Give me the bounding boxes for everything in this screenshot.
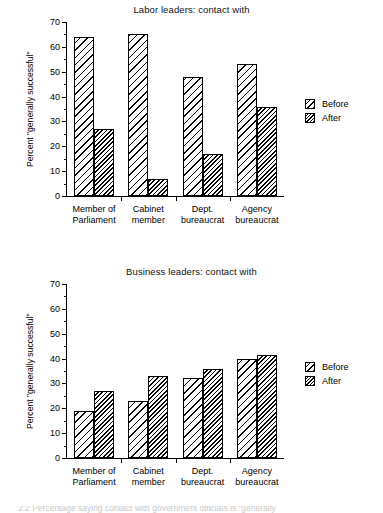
y-axis-minor-tick xyxy=(64,34,67,35)
bar-before-0 xyxy=(74,37,94,196)
figure-caption-partial: 2.2 Percentage saying contact with gover… xyxy=(0,506,383,513)
bar-before-2 xyxy=(183,378,203,458)
y-axis-tick-label: 30 xyxy=(50,116,60,126)
y-axis-tick xyxy=(62,408,67,409)
y-axis-tick xyxy=(62,284,67,285)
x-axis-tick xyxy=(230,458,231,463)
bar-before-1 xyxy=(128,34,148,196)
plot-area: Percent "generally successful" 010203040… xyxy=(66,284,284,459)
y-axis-minor-tick xyxy=(64,396,67,397)
x-axis-category-label: Dept.bureaucrat xyxy=(181,204,224,226)
y-axis-minor-tick xyxy=(64,321,67,322)
y-axis-tick xyxy=(62,196,67,197)
y-axis-tick xyxy=(62,458,67,459)
y-axis-tick xyxy=(62,22,67,23)
y-axis-tick xyxy=(62,47,67,48)
legend-item-before: Before xyxy=(305,362,349,372)
x-axis-tick xyxy=(176,196,177,201)
x-axis-category-label: Member ofParliament xyxy=(73,204,116,226)
bar-after-2 xyxy=(203,369,223,458)
x-axis-category-label: Cabinetmember xyxy=(132,466,165,488)
y-axis-tick-label: 70 xyxy=(50,279,60,289)
y-axis-tick-label: 10 xyxy=(50,166,60,176)
bar-after-3 xyxy=(257,107,277,196)
bar-before-2 xyxy=(183,77,203,196)
legend-item-after: After xyxy=(305,376,349,386)
y-axis-tick xyxy=(62,309,67,310)
chart-title: Business leaders: contact with xyxy=(0,266,383,277)
y-axis-minor-tick xyxy=(64,446,67,447)
y-axis-tick-label: 0 xyxy=(55,453,60,463)
legend-label-after: After xyxy=(322,113,341,123)
bar-after-3 xyxy=(257,355,277,458)
y-axis-minor-tick xyxy=(64,134,67,135)
y-axis-tick-label: 50 xyxy=(50,67,60,77)
x-axis-tick xyxy=(121,458,122,463)
x-axis-category-line: Cabinet xyxy=(132,204,165,215)
legend-label-before: Before xyxy=(322,99,349,109)
y-axis-tick xyxy=(62,171,67,172)
y-axis-title: Percent "generally successful" xyxy=(25,314,35,430)
x-axis-tick xyxy=(121,196,122,201)
y-axis-minor-tick xyxy=(64,296,67,297)
legend-label-before: Before xyxy=(322,362,349,372)
bar-after-1 xyxy=(148,376,168,458)
x-axis-category-line: Parliament xyxy=(73,477,116,488)
bar-before-3 xyxy=(237,64,257,196)
bar-before-3 xyxy=(237,359,257,458)
y-axis-tick xyxy=(62,146,67,147)
y-axis-tick xyxy=(62,334,67,335)
x-axis-category-line: Agency xyxy=(235,204,278,215)
legend-item-after: After xyxy=(305,113,349,123)
x-axis-category-label: Agencybureaucrat xyxy=(235,466,278,488)
y-axis-tick-label: 70 xyxy=(50,17,60,27)
bar-after-0 xyxy=(94,129,114,196)
bar-after-2 xyxy=(203,154,223,196)
chart-title: Labor leaders: contact with xyxy=(0,4,383,15)
x-axis-tick xyxy=(230,196,231,201)
y-axis-tick xyxy=(62,359,67,360)
y-axis-tick-label: 30 xyxy=(50,378,60,388)
y-axis-minor-tick xyxy=(64,371,67,372)
y-axis-tick-label: 10 xyxy=(50,428,60,438)
y-axis-minor-tick xyxy=(64,59,67,60)
y-axis-minor-tick xyxy=(64,159,67,160)
chart-legend: Before After xyxy=(305,362,349,390)
y-axis-title: Percent "generally successful" xyxy=(25,52,35,168)
legend-swatch-after-icon xyxy=(305,376,315,386)
y-axis-tick-label: 20 xyxy=(50,141,60,151)
y-axis-minor-tick xyxy=(64,421,67,422)
x-axis-category-line: Agency xyxy=(235,466,278,477)
x-axis-category-line: member xyxy=(132,477,165,488)
y-axis-minor-tick xyxy=(64,184,67,185)
x-axis-tick xyxy=(176,458,177,463)
y-axis-tick-label: 60 xyxy=(50,42,60,52)
x-axis-category-line: Member of xyxy=(73,204,116,215)
x-axis-category-line: member xyxy=(132,215,165,226)
chart-legend: Before After xyxy=(305,99,349,127)
x-axis-category-line: Dept. xyxy=(181,204,224,215)
x-axis-category-line: Parliament xyxy=(73,215,116,226)
y-axis-tick-label: 20 xyxy=(50,403,60,413)
x-axis-category-line: Dept. xyxy=(181,466,224,477)
chart-labor-leaders: Labor leaders: contact with Percent "gen… xyxy=(0,0,383,250)
legend-swatch-before-icon xyxy=(305,362,315,372)
y-axis-minor-tick xyxy=(64,84,67,85)
bar-before-1 xyxy=(128,401,148,458)
x-axis-category-label: Dept.bureaucrat xyxy=(181,466,224,488)
plot-area: Percent "generally successful" 010203040… xyxy=(66,22,284,197)
bar-before-0 xyxy=(74,411,94,458)
x-axis-category-line: bureaucrat xyxy=(235,215,278,226)
legend-swatch-after-icon xyxy=(305,113,315,123)
chart-business-leaders: Business leaders: contact with Percent "… xyxy=(0,250,383,505)
y-axis-tick-label: 40 xyxy=(50,354,60,364)
y-axis-tick-label: 40 xyxy=(50,92,60,102)
x-axis-category-line: bureaucrat xyxy=(181,477,224,488)
y-axis-tick-label: 60 xyxy=(50,304,60,314)
figure-caption-text: 2.2 Percentage saying contact with gover… xyxy=(0,506,383,513)
x-axis-category-label: Cabinetmember xyxy=(132,204,165,226)
legend-item-before: Before xyxy=(305,99,349,109)
x-axis-category-label: Agencybureaucrat xyxy=(235,204,278,226)
x-axis-category-line: Member of xyxy=(73,466,116,477)
x-axis-category-line: bureaucrat xyxy=(235,477,278,488)
